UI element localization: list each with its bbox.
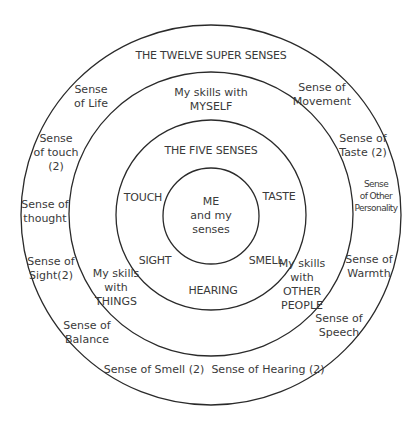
sense-of-movement: Sense of Movement <box>293 81 351 109</box>
skills-with-myself: My skills with MYSELF <box>174 86 247 114</box>
center-me-label: ME and my senses <box>190 195 231 237</box>
sense-of-life: Sense of Life <box>74 83 108 111</box>
sense-of-touch-2: Sense of touch (2) <box>33 132 78 174</box>
sense-of-hearing-2: Sense of Hearing (2) <box>211 363 324 377</box>
sense-of-balance: Sense of Balance <box>63 319 110 347</box>
twelve-super-senses-title: THE TWELVE SUPER SENSES <box>135 49 286 63</box>
five-sense-smell: SMELL <box>249 254 284 268</box>
sense-of-smell-2: Sense of Smell (2) <box>104 363 204 377</box>
skills-with-things: My skills with THINGS <box>93 267 140 309</box>
sense-of-warmth: Sense of Warmth <box>345 253 392 281</box>
sense-of-taste-2: Sense of Taste (2) <box>339 132 387 160</box>
five-sense-hearing: HEARING <box>189 284 238 298</box>
sense-of-speech: Sense of Speech <box>315 312 362 340</box>
skills-with-other-people: My skills with OTHER PEOPLE <box>279 257 326 313</box>
sense-of-thought: Sense of thought <box>21 198 68 226</box>
five-sense-sight: SIGHT <box>139 254 172 268</box>
five-sense-taste: TASTE <box>262 190 295 204</box>
sense-of-other-personality: Sense of Other Personality <box>354 178 397 214</box>
five-sense-touch: TOUCH <box>124 191 162 205</box>
five-senses-title: THE FIVE SENSES <box>164 144 257 158</box>
sense-of-sight-2: Sense of Sight(2) <box>27 255 74 283</box>
